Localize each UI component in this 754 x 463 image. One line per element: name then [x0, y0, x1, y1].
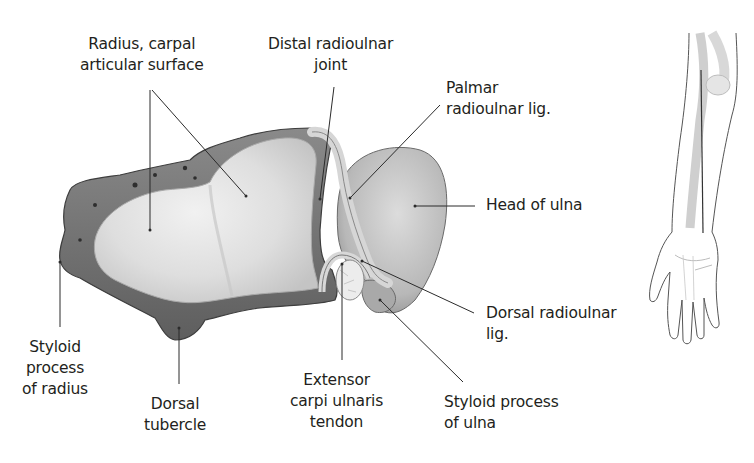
label-head-of-ulna: Head of ulna [486, 195, 582, 216]
label-radius-carpal-articular-surface: Radius, carpal articular surface [80, 34, 204, 76]
inset-forearm-sketch [650, 33, 738, 344]
label-dorsal-radioulnar-lig: Dorsal radioulnar lig. [486, 303, 617, 345]
label-palmar-radioulnar-lig: Palmar radioulnar lig. [446, 78, 551, 120]
label-styloid-process-of-ulna: Styloid process of ulna [444, 392, 559, 434]
label-distal-radioulnar-joint: Distal radioulnar joint [268, 34, 393, 76]
label-dorsal-tubercle: Dorsal tubercle [144, 394, 206, 436]
label-styloid-process-of-radius: Styloid process of radius [22, 337, 88, 400]
anatomy-figure: Radius, carpal articular surface Distal … [0, 0, 754, 463]
label-extensor-carpi-ulnaris-tendon: Extensor carpi ulnaris tendon [290, 370, 383, 433]
